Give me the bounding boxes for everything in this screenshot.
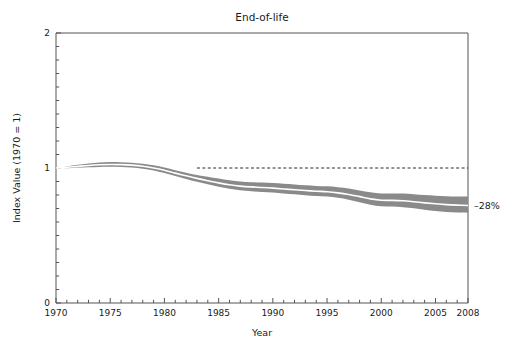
chart-title: End-of-life [235, 11, 288, 23]
x-tick-label: 1975 [99, 308, 122, 318]
x-tick-label: 1990 [261, 308, 284, 318]
x-axis-ticks [56, 298, 468, 303]
y-axis-title: Index Value (1970 = 1) [11, 113, 22, 223]
x-axis-tick-labels: 197019751980198519901995200020052008 [45, 308, 480, 318]
x-axis-title: Year [251, 327, 272, 338]
y-tick-label: 1 [44, 163, 50, 173]
change-annotation: –28% [474, 200, 500, 211]
x-tick-label: 1995 [316, 308, 339, 318]
y-tick-label: 0 [44, 298, 50, 308]
x-tick-label: 1970 [45, 308, 68, 318]
x-tick-label: 1985 [207, 308, 230, 318]
y-tick-label: 2 [44, 28, 50, 38]
y-axis-tick-labels: 012 [44, 28, 50, 308]
x-tick-label: 2000 [370, 308, 393, 318]
x-tick-label: 2008 [457, 308, 480, 318]
chart-figure: End-of-life 012 197019751980198519901995… [0, 0, 515, 355]
x-tick-label: 1980 [153, 308, 176, 318]
x-tick-label: 2005 [424, 308, 447, 318]
end-of-life-index-chart: End-of-life 012 197019751980198519901995… [0, 0, 515, 355]
